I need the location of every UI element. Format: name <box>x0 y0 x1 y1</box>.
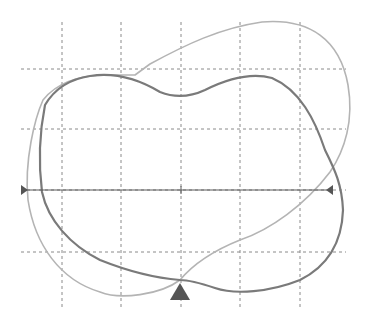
horizontal-axis <box>21 186 327 194</box>
shape-plot <box>0 0 367 326</box>
plot-canvas <box>0 0 367 326</box>
bottom-position-marker-icon[interactable] <box>170 283 190 300</box>
dark-outline-curve <box>40 75 343 292</box>
light-outline-curve <box>27 22 350 296</box>
right-axis-marker-icon[interactable] <box>326 185 333 195</box>
grid <box>21 22 346 307</box>
curves <box>27 22 350 296</box>
